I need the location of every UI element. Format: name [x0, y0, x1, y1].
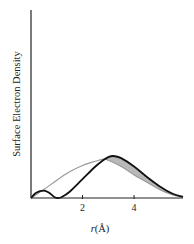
y-axis-label: Surface Electron Density: [11, 51, 22, 157]
x-axis-unit: (Å): [95, 223, 110, 234]
gray-density-curve: [31, 159, 183, 198]
x-axis-label: r(Å): [91, 223, 110, 234]
y-axis-label-container: Surface Electron Density: [6, 0, 26, 244]
x-tick-label: 2: [80, 202, 85, 213]
chart-plot-area: [0, 0, 194, 244]
x-tick-label: 4: [132, 202, 137, 213]
shaded-difference-region: [103, 156, 183, 197]
black-density-curve: [31, 156, 183, 198]
